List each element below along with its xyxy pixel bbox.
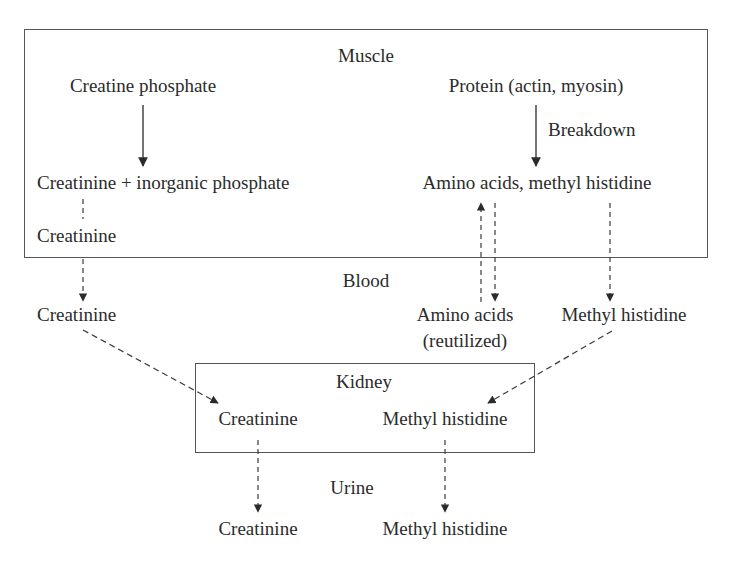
creatinine-methylhistidine-flow-diagram: Muscle Creatine phosphate Protein (actin… [0, 0, 735, 563]
node-amino-acids-methyl-histidine: Amino acids, methyl histidine [422, 172, 651, 194]
node-amino-acids-reutilized-note: (reutilized) [423, 330, 507, 352]
node-methyl-histidine-kidney: Methyl histidine [382, 408, 507, 430]
arrow-creatinine-blood-to-kidney [83, 330, 218, 403]
node-creatinine-kidney: Creatinine [218, 408, 297, 430]
node-methyl-histidine-urine: Methyl histidine [382, 518, 507, 540]
node-creatinine-plus-inorganic-phosphate: Creatinine + inorganic phosphate [37, 172, 290, 194]
urine-title: Urine [330, 477, 373, 499]
muscle-title: Muscle [338, 45, 394, 67]
node-creatinine-urine: Creatinine [218, 518, 297, 540]
node-protein-actin-myosin: Protein (actin, myosin) [449, 75, 624, 97]
node-creatinine-muscle: Creatinine [37, 225, 116, 247]
blood-title: Blood [343, 270, 389, 292]
node-creatine-phosphate: Creatine phosphate [70, 75, 216, 97]
label-breakdown: Breakdown [548, 119, 636, 141]
kidney-title: Kidney [336, 371, 392, 393]
node-methyl-histidine-blood: Methyl histidine [561, 304, 686, 326]
node-creatinine-blood: Creatinine [37, 304, 116, 326]
node-amino-acids-blood: Amino acids [417, 304, 514, 326]
